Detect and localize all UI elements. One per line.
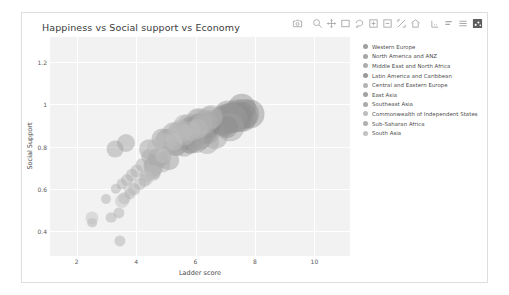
gridline-horizontal-3 (50, 189, 350, 190)
toggle-spike-lines-icon[interactable] (429, 17, 442, 30)
x-axis-title: Ladder score (179, 269, 221, 277)
legend-marker-icon (363, 54, 368, 59)
pan-icon[interactable] (325, 17, 338, 30)
legend-marker-icon (363, 102, 368, 107)
legend-label: South Asia (372, 130, 401, 136)
legend-item[interactable]: Commonwealth of Independent States (361, 109, 489, 119)
legend-label: Latin America and Caribbean (372, 73, 452, 79)
legend-marker-icon (363, 131, 368, 136)
x-tick-label: 4 (134, 258, 138, 265)
legend-item[interactable]: Middle East and North Africa (361, 61, 489, 71)
modebar-separator-2 (423, 17, 428, 30)
zoom-out-icon[interactable] (381, 17, 394, 30)
legend-label: Central and Eastern Europe (372, 82, 448, 88)
y-tick-label: 0.8 (37, 143, 47, 150)
legend-label: East Asia (372, 92, 397, 98)
page-root: Happiness vs Social support vs Economy 2… (0, 0, 509, 295)
gridline-horizontal-4 (50, 231, 350, 232)
legend-marker-icon (363, 44, 368, 49)
plotly-logo-icon[interactable] (471, 17, 484, 30)
hover-closest-icon[interactable] (457, 17, 470, 30)
y-axis-title: Social Support (26, 122, 34, 169)
y-tick-label: 0.6 (37, 185, 47, 192)
legend-item[interactable]: Western Europe (361, 42, 489, 52)
legend-item[interactable]: North America and ANZ (361, 52, 489, 62)
legend-label: Sub-Saharan Africa (372, 121, 425, 127)
gridline-horizontal-0 (50, 62, 350, 63)
legend-item[interactable]: Sub-Saharan Africa (361, 119, 489, 129)
legend-marker-icon (363, 83, 368, 88)
bubble-point[interactable] (101, 194, 111, 204)
zoom-in-icon[interactable] (367, 17, 380, 30)
bubble-point[interactable] (105, 212, 116, 223)
legend-marker-icon (363, 111, 368, 116)
x-tick-label: 8 (253, 258, 257, 265)
legend-label: Middle East and North Africa (372, 63, 450, 69)
bubble-point[interactable] (155, 148, 171, 164)
y-tick-label: 0.4 (37, 227, 47, 234)
gridline-horizontal-1 (50, 104, 350, 105)
legend-label: Southeast Asia (372, 101, 413, 107)
bubble-point[interactable] (107, 141, 124, 158)
modebar-group-hover[interactable] (429, 17, 470, 30)
legend-item[interactable]: Central and Eastern Europe (361, 80, 489, 90)
x-tick-label: 10 (311, 258, 319, 265)
camera-icon[interactable] (291, 17, 304, 30)
x-tick-label: 2 (75, 258, 79, 265)
lasso-select-icon[interactable] (353, 17, 366, 30)
bubble-point[interactable] (115, 194, 129, 208)
reset-axes-icon[interactable] (409, 17, 422, 30)
x-tick-label: 6 (194, 258, 198, 265)
bubble-point[interactable] (111, 184, 121, 194)
legend-item[interactable]: South Asia (361, 128, 489, 138)
y-tick-label: 1.2 (37, 59, 47, 66)
legend-label: Western Europe (372, 44, 415, 50)
autoscale-icon[interactable] (395, 17, 408, 30)
legend-marker-icon (363, 92, 368, 97)
legend-marker-icon (363, 121, 368, 126)
bubble-point[interactable] (115, 235, 126, 246)
modebar-group-zoompan[interactable] (311, 17, 422, 30)
legend-label: Commonwealth of Independent States (372, 111, 478, 117)
legend-marker-icon (363, 63, 368, 68)
legend-item[interactable]: Southeast Asia (361, 100, 489, 110)
zoom-in-box-icon[interactable] (339, 17, 352, 30)
legend-label: North America and ANZ (372, 53, 437, 59)
zoom-icon[interactable] (311, 17, 324, 30)
modebar-group-download[interactable] (291, 17, 304, 30)
chart-card: Happiness vs Social support vs Economy 2… (21, 12, 488, 283)
modebar-separator (305, 17, 310, 30)
bubble-point[interactable] (139, 170, 154, 185)
legend-item[interactable]: East Asia (361, 90, 489, 100)
plot-area[interactable] (50, 37, 350, 256)
y-tick-label: 1 (43, 101, 47, 108)
plotly-modebar[interactable] (291, 15, 484, 32)
legend-marker-icon (363, 73, 368, 78)
plot-container[interactable]: Happiness vs Social support vs Economy 2… (22, 13, 487, 282)
chart-legend[interactable]: Western EuropeNorth America and ANZMiddl… (361, 42, 489, 138)
legend-item[interactable]: Latin America and Caribbean (361, 71, 489, 81)
bubble-point[interactable] (165, 134, 182, 151)
chart-title: Happiness vs Social support vs Economy (42, 22, 240, 33)
hover-compare-icon[interactable] (443, 17, 456, 30)
